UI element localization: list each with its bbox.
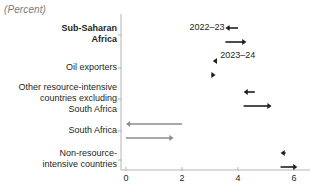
arrow-1-2022-23 <box>213 58 217 64</box>
chart-root: (Percent) Sub-Saharan AfricaOil exporter… <box>0 0 314 186</box>
arrow-2-2023-24 <box>244 103 272 109</box>
y-axis-label-3: South Africa <box>2 125 117 136</box>
y-axis-label-1: Oil exporters <box>2 62 117 73</box>
axis-group <box>121 14 310 170</box>
y-axis-label-4: Non-resource- intensive countries <box>2 148 117 170</box>
series-label-2023-24: 2023–24 <box>220 50 255 60</box>
arrow-3-2023-24 <box>126 135 174 141</box>
x-tick-label-4: 4 <box>228 173 248 183</box>
x-tick-label-0: 0 <box>116 173 136 183</box>
arrow-0-2023-24 <box>225 39 246 45</box>
series-label-2022-23: 2022–23 <box>189 22 224 32</box>
arrow-1-2023-24 <box>211 72 215 78</box>
x-tick-label-6: 6 <box>284 173 304 183</box>
y-axis-label-0: Sub-Saharan Africa <box>2 23 117 45</box>
arrow-4-2023-24 <box>281 164 298 170</box>
y-axis-label-2: Other resource-intensive countries exclu… <box>2 82 117 115</box>
arrow-2-2022-23 <box>244 89 255 95</box>
arrow-0-2022-23 <box>225 25 238 31</box>
arrow-3-2022-23 <box>126 121 182 127</box>
arrow-4-2022-23 <box>281 150 286 156</box>
x-tick-label-2: 2 <box>172 173 192 183</box>
